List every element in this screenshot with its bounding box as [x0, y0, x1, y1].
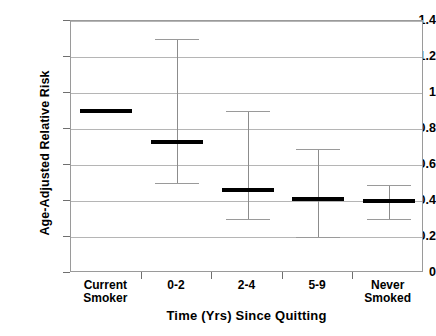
x-axis-tick-mark — [282, 272, 283, 279]
y-axis-tick-mark — [63, 236, 70, 237]
error-bar-line — [177, 39, 178, 183]
x-axis-tick-label: Never Smoked — [352, 279, 423, 306]
x-axis-tick-mark — [352, 272, 353, 279]
gridline — [71, 165, 422, 166]
error-bar-cap-lower — [367, 219, 411, 220]
x-axis-title: Time (Yrs) Since Quitting — [70, 308, 423, 323]
error-bar-cap-lower — [296, 237, 340, 238]
data-point-marker — [222, 188, 274, 192]
gridline — [71, 93, 422, 94]
gridline — [71, 21, 422, 22]
error-bar-cap-upper — [296, 149, 340, 150]
y-axis-tick-mark — [63, 128, 70, 129]
y-axis-title: Age-Adjusted Relative Risk — [38, 28, 52, 278]
error-bar-cap-upper — [155, 39, 199, 40]
gridline — [71, 237, 422, 238]
y-axis-tick-mark — [63, 92, 70, 93]
x-axis-tick-mark — [141, 272, 142, 279]
error-bar-line — [318, 149, 319, 237]
error-bar-line — [248, 111, 249, 219]
x-axis-tick-label: 5-9 — [282, 279, 353, 292]
error-bar-cap-upper — [226, 111, 270, 112]
data-point-marker — [151, 140, 203, 144]
x-axis-tick-label: Current Smoker — [70, 279, 141, 306]
y-axis-tick-mark — [63, 164, 70, 165]
y-axis-tick-mark — [63, 200, 70, 201]
error-bar-cap-lower — [155, 183, 199, 184]
x-axis-tick-label: 2-4 — [211, 279, 282, 292]
y-axis-tick-mark — [63, 272, 70, 273]
x-axis-tick-label: 0-2 — [141, 279, 212, 292]
data-point-marker — [80, 109, 132, 113]
data-point-marker — [363, 199, 415, 203]
data-point-marker — [292, 197, 344, 201]
gridline — [71, 129, 422, 130]
x-axis-tick-mark — [211, 272, 212, 279]
error-bar-cap-upper — [367, 185, 411, 186]
y-axis-tick-mark — [63, 56, 70, 57]
chart-figure: Age-Adjusted Relative Risk 00.20.40.60.8… — [0, 0, 436, 336]
gridline — [71, 57, 422, 58]
plot-area — [70, 20, 423, 272]
y-axis-tick-mark — [63, 20, 70, 21]
error-bar-cap-lower — [226, 219, 270, 220]
